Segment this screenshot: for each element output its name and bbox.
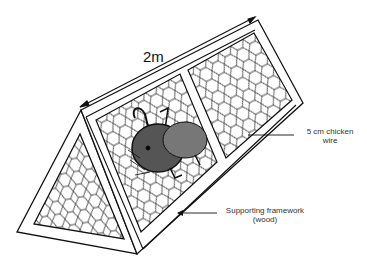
wire-label-line2: wire bbox=[300, 136, 360, 145]
wire-label-line1: 5 cm chicken bbox=[300, 127, 360, 136]
wire-label: 5 cm chicken wire bbox=[300, 127, 360, 145]
dimension-label: 2m bbox=[143, 48, 164, 65]
frame-label-line2: (wood) bbox=[222, 215, 308, 224]
frame-leader-arrow bbox=[177, 210, 217, 216]
frame-label: Supporting framework (wood) bbox=[222, 206, 308, 224]
frame-label-line1: Supporting framework bbox=[222, 206, 308, 215]
